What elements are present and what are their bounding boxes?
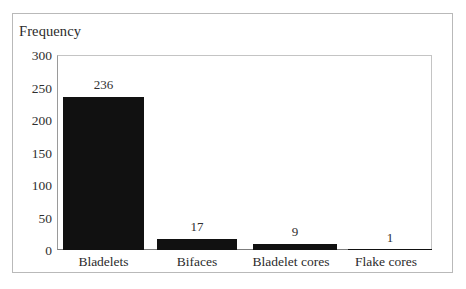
bar-value-bladelet-cores: 9 <box>253 225 337 238</box>
y-tick-label-50: 50 <box>39 212 53 226</box>
y-tick-label-100: 100 <box>32 179 52 193</box>
x-category-label-bifaces: Bifaces <box>157 255 237 269</box>
bars-layer: 236 17 9 1 <box>58 55 432 250</box>
y-tick-label-150: 150 <box>32 147 52 161</box>
y-tick-label-300: 300 <box>32 49 52 63</box>
y-tick-label-200: 200 <box>32 114 52 128</box>
x-category-label-bladelets: Bladelets <box>63 255 144 269</box>
x-category-label-flake-cores: Flake cores <box>344 255 428 269</box>
bar-flake-cores[interactable] <box>348 249 432 250</box>
bar-bladelets[interactable] <box>63 97 144 250</box>
y-tick-label-0: 0 <box>45 244 52 258</box>
y-axis-tick-labels: 300 250 200 150 100 50 0 <box>0 0 52 289</box>
bar-bifaces[interactable] <box>157 239 237 250</box>
chart-figure: Frequency 300 250 200 150 100 50 0 236 1… <box>0 0 466 289</box>
bar-value-bifaces: 17 <box>157 220 237 233</box>
bar-value-bladelets: 236 <box>63 78 144 91</box>
bar-value-flake-cores: 1 <box>348 231 432 244</box>
bar-bladelet-cores[interactable] <box>253 244 337 250</box>
y-tick-label-250: 250 <box>32 82 52 96</box>
x-category-label-bladelet-cores: Bladelet cores <box>249 255 333 269</box>
